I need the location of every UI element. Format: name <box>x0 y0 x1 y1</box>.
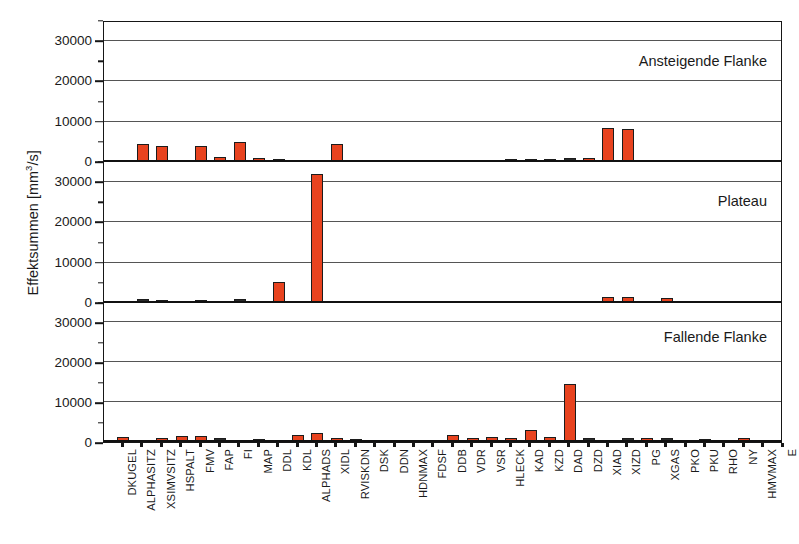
y-tick-label: 30000 <box>54 34 92 48</box>
x-tick <box>528 443 531 447</box>
x-tick-label: XGAS <box>670 449 681 481</box>
x-tick-label: DZD <box>593 449 604 472</box>
x-tick <box>587 443 590 447</box>
y-tick-label: 0 <box>84 296 92 310</box>
panel-fallende-flanke: Fallende Flanke <box>103 303 782 443</box>
x-tick-label: DKUGEL <box>127 449 138 496</box>
x-tick <box>373 443 376 447</box>
y-tick-label: 20000 <box>54 356 92 370</box>
x-tick-label: XSIMVSITZ <box>166 449 177 509</box>
y-tick-major <box>95 402 103 404</box>
y-tick-major <box>95 262 103 264</box>
x-tick-label: DAD <box>573 449 584 473</box>
bar <box>311 174 323 303</box>
x-tick-label: RHO <box>728 449 739 474</box>
x-tick-label: DDL <box>282 449 293 472</box>
x-tick <box>354 443 357 447</box>
x-tick <box>276 443 279 447</box>
x-tick <box>412 443 415 447</box>
x-tick <box>431 443 434 447</box>
panel-bars <box>104 22 781 162</box>
x-tick-label: HMVMAX <box>767 449 778 499</box>
panel-title: Fallende Flanke <box>664 329 767 345</box>
x-tick <box>645 443 648 447</box>
x-tick <box>781 443 784 447</box>
y-tick-label: 20000 <box>54 75 92 89</box>
y-tick-major <box>95 322 103 324</box>
x-tick-label: XIDL <box>340 449 351 474</box>
x-tick <box>334 443 337 447</box>
x-tick-label: DDN <box>399 449 410 474</box>
x-tick-label: HDNMAX <box>418 449 429 498</box>
x-tick-label: FAP <box>224 449 235 470</box>
panel-bars <box>104 162 781 303</box>
y-tick-label: 20000 <box>54 216 92 230</box>
y-tick-major <box>95 222 103 224</box>
x-tick <box>722 443 725 447</box>
x-tick-label: KAD <box>534 449 545 472</box>
x-tick <box>179 443 182 447</box>
x-tick <box>160 443 163 447</box>
x-tick-label: ALPHASITZ <box>146 449 157 511</box>
y-tick-label: 10000 <box>54 396 92 410</box>
x-tick-label: DSK <box>379 449 390 472</box>
x-tick <box>567 443 570 447</box>
x-tick <box>121 443 124 447</box>
x-tick-label: NY <box>748 449 759 465</box>
x-tick <box>490 443 493 447</box>
bar <box>234 142 246 162</box>
x-tick <box>237 443 240 447</box>
x-tick-label: DDB <box>457 449 468 473</box>
chart-figure: Effektsummen [mm3/s] 0100002000030000010… <box>0 0 799 544</box>
x-tick-label: PKO <box>690 449 701 473</box>
y-tick-major <box>95 362 103 364</box>
y-tick-major <box>95 121 103 123</box>
x-tick <box>761 443 764 447</box>
x-tick <box>703 443 706 447</box>
x-axis: DKUGELALPHASITZXSIMVSITZHSPALTFMVFAPFIMA… <box>103 443 782 544</box>
plot-stack: Ansteigende Flanke Plateau Fallende Flan… <box>103 21 782 443</box>
y-tick-major <box>95 442 103 444</box>
y-tick-major <box>95 181 103 183</box>
y-axis: 0100002000030000010000200003000001000020… <box>0 21 103 443</box>
x-tick <box>218 443 221 447</box>
x-tick-label: PKU <box>709 449 720 472</box>
x-tick <box>315 443 318 447</box>
x-tick-label: XIAD <box>612 449 623 476</box>
x-tick <box>509 443 512 447</box>
panel-ansteigende-flanke: Ansteigende Flanke <box>103 21 782 162</box>
x-tick-label: XIZD <box>631 449 642 475</box>
x-tick <box>742 443 745 447</box>
y-tick-label: 30000 <box>54 316 92 330</box>
bar <box>273 282 285 303</box>
x-tick <box>257 443 260 447</box>
x-tick-label: E <box>787 449 798 457</box>
y-tick-label: 30000 <box>54 175 92 189</box>
x-tick-label: MAP <box>263 449 274 474</box>
x-tick-label: FMV <box>205 449 216 473</box>
y-tick-label: 10000 <box>54 115 92 129</box>
x-tick <box>199 443 202 447</box>
x-tick <box>470 443 473 447</box>
y-tick-major <box>95 81 103 83</box>
x-tick-label: KZD <box>554 449 565 472</box>
y-tick-label: 10000 <box>54 256 92 270</box>
bar <box>622 129 634 162</box>
x-tick <box>664 443 667 447</box>
y-tick-label: 0 <box>84 436 92 450</box>
x-tick-label: VDR <box>476 449 487 473</box>
panel-title: Plateau <box>718 193 767 209</box>
x-tick-label: ALPHADS <box>321 449 332 502</box>
x-tick-label: HLECK <box>515 449 526 487</box>
panel-title: Ansteigende Flanke <box>639 53 767 69</box>
x-tick-label: FI <box>243 449 254 459</box>
x-tick-label: PG <box>651 449 662 465</box>
bar <box>602 128 614 162</box>
x-tick-label: RVISKDN <box>360 449 371 499</box>
bar <box>564 384 576 442</box>
x-tick-label: HSPALT <box>185 449 196 491</box>
x-tick <box>548 443 551 447</box>
x-tick-label: KDL <box>302 449 313 471</box>
x-tick <box>625 443 628 447</box>
x-tick <box>140 443 143 447</box>
